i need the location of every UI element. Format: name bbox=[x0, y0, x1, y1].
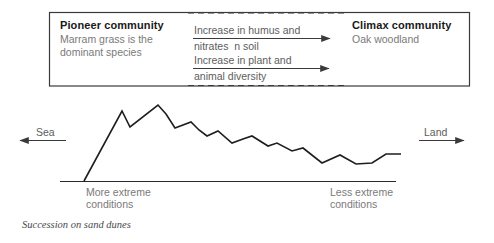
dune-profile-line bbox=[84, 105, 401, 181]
less-extreme-conditions-line2: conditions bbox=[330, 198, 377, 210]
sea-direction-label: Sea bbox=[36, 126, 55, 139]
more-extreme-conditions-line2: conditions bbox=[86, 198, 133, 210]
climax-community-line1: Oak woodland bbox=[352, 33, 419, 46]
figure-caption: Succession on sand dunes bbox=[22, 219, 131, 232]
plant-animal-diversity-label-line1: Increase in plant and bbox=[194, 54, 291, 67]
pioneer-community-line2: dominant species bbox=[60, 46, 142, 59]
diagram-canvas: Pioneer community Marram grass is the do… bbox=[0, 0, 494, 243]
pioneer-community-title: Pioneer community bbox=[60, 19, 164, 32]
humus-nitrates-label-line2: nitrates n soil bbox=[194, 40, 259, 53]
climax-community-title: Climax community bbox=[352, 19, 451, 32]
humus-nitrates-label-line1: Increase in humus and bbox=[194, 24, 300, 37]
less-extreme-conditions-line1: Less extreme bbox=[330, 186, 393, 198]
plant-animal-diversity-label-line2: animal diversity bbox=[194, 70, 266, 83]
pioneer-community-line1: Marram grass is the bbox=[60, 33, 153, 46]
more-extreme-conditions-line1: More extreme bbox=[86, 186, 151, 198]
land-direction-label: Land bbox=[424, 126, 447, 139]
